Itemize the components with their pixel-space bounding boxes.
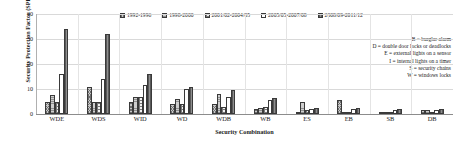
bar-group-wde xyxy=(36,14,78,114)
group-separator xyxy=(161,14,162,114)
bar-groups xyxy=(36,14,453,114)
bar-group-wb xyxy=(245,14,287,114)
bar-group-db xyxy=(411,14,453,114)
bar-group-es xyxy=(286,14,328,114)
bar[interactable] xyxy=(147,74,152,114)
x-axis-tick-label: WDS xyxy=(78,115,120,123)
bar-group-wd xyxy=(161,14,203,114)
y-axis-tick-label: 0 xyxy=(9,111,33,117)
bar[interactable] xyxy=(397,109,402,114)
bar[interactable] xyxy=(105,34,110,114)
bar[interactable] xyxy=(439,109,444,114)
x-axis-tick-labels: WDEWDSWIDWDWDBWBESEBSBDB xyxy=(36,115,453,123)
x-axis-tick-label: DB xyxy=(411,115,453,123)
x-axis-tick-label: WDE xyxy=(36,115,78,123)
bar[interactable] xyxy=(64,29,69,114)
group-separator xyxy=(328,14,329,114)
x-axis-tick-label: ES xyxy=(286,115,328,123)
y-axis-tick-label: 20 xyxy=(9,61,33,67)
bar-group-sb xyxy=(370,14,412,114)
x-axis-title: Security Combination xyxy=(36,128,453,135)
bar[interactable] xyxy=(189,87,194,115)
x-axis-tick-label: WDB xyxy=(203,115,245,123)
y-axis-tick-label: 40 xyxy=(9,11,33,17)
bar-group-wdb xyxy=(203,14,245,114)
bar-group-wid xyxy=(119,14,161,114)
group-separator xyxy=(245,14,246,114)
bar[interactable] xyxy=(231,90,236,114)
group-separator xyxy=(119,14,120,114)
y-axis-tick-label: 10 xyxy=(9,86,33,92)
bar[interactable] xyxy=(356,108,361,114)
y-axis-tick-label: 30 xyxy=(9,36,33,42)
plot-area: 010203040 xyxy=(36,14,453,114)
bar[interactable] xyxy=(272,98,277,114)
bar[interactable] xyxy=(314,108,319,114)
x-axis-tick-label: WID xyxy=(119,115,161,123)
x-axis-tick-label: WB xyxy=(245,115,287,123)
x-axis-tick-label: EB xyxy=(328,115,370,123)
group-separator xyxy=(370,14,371,114)
group-separator xyxy=(203,14,204,114)
group-separator xyxy=(78,14,79,114)
x-axis-tick-label: SB xyxy=(370,115,412,123)
bar-chart: Security Protection Factor (SPF) 1992-19… xyxy=(0,0,459,146)
bar-group-eb xyxy=(328,14,370,114)
group-separator xyxy=(411,14,412,114)
x-axis-tick-label: WD xyxy=(161,115,203,123)
group-separator xyxy=(286,14,287,114)
bar-group-wds xyxy=(78,14,120,114)
